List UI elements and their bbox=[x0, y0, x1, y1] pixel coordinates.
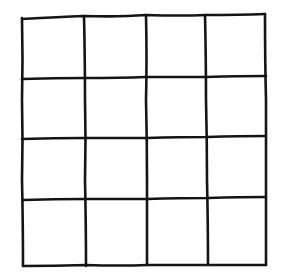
grid-line-v3 bbox=[205, 15, 208, 265]
grid-line-top bbox=[22, 14, 265, 19]
grid-line-bottom bbox=[23, 265, 266, 266]
grid-line-v1 bbox=[84, 16, 86, 266]
grid-lines bbox=[22, 14, 266, 266]
grid-line-left bbox=[22, 18, 23, 266]
hand-drawn-grid bbox=[0, 0, 283, 278]
grid-line-h3 bbox=[23, 197, 266, 200]
grid-line-h2 bbox=[22, 136, 266, 139]
grid-line-right bbox=[265, 14, 266, 265]
grid-line-h1 bbox=[22, 76, 266, 79]
grid-line-v2 bbox=[146, 15, 147, 265]
